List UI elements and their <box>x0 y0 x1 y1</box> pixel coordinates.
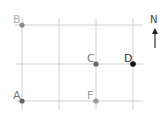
grid-diagram: B C D A F N <box>0 0 167 120</box>
label-north: N <box>150 14 157 25</box>
label-c: C <box>87 52 95 65</box>
label-f: F <box>87 89 93 102</box>
label-b: B <box>13 13 21 26</box>
label-d: D <box>124 52 132 65</box>
label-a: A <box>13 89 21 102</box>
north-arrow-icon: N <box>150 14 158 48</box>
point-f <box>93 98 98 103</box>
